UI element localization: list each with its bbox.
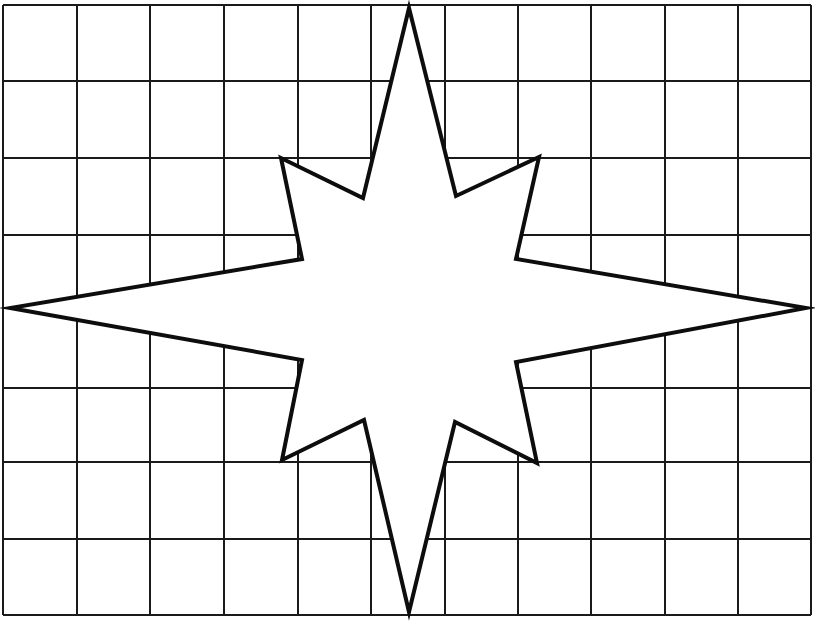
drawing-canvas (0, 0, 815, 621)
